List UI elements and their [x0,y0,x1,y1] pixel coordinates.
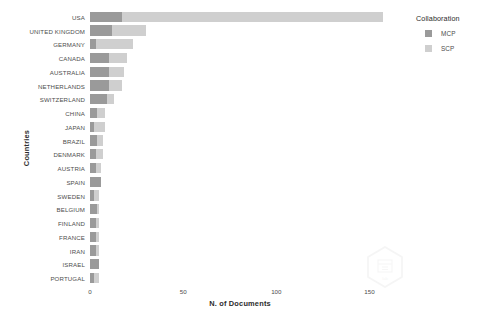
stacked-bar [90,25,146,35]
stacked-bar [90,190,99,200]
stacked-bar [90,53,127,63]
y-axis-category-label: UNITED KINGDOM [29,27,85,34]
legend-item-scp[interactable]: SCP [416,44,482,53]
x-axis-title: N. of Documents [90,299,390,308]
stacked-bar [90,218,99,228]
stacked-bar [90,122,105,132]
bar-row: AUSTRIA [90,161,390,175]
legend-item-mcp[interactable]: MCP [416,29,482,38]
stacked-bar [90,149,103,159]
bar-row: CANADA [90,51,390,65]
bar-row: BRAZIL [90,134,390,148]
bar-row: IRAN [90,244,390,258]
y-axis-category-label: AUSTRIA [58,165,85,172]
stacked-bar [90,232,99,242]
stacked-bar [90,163,101,173]
bar-row: UNITED KINGDOM [90,24,390,38]
plot-area: USAUNITED KINGDOMGERMANYCANADAAUSTRALIAN… [90,10,390,285]
bar-segment-mcp [90,25,112,35]
y-axis-category-label: DENMARK [53,151,85,158]
y-axis-category-label: SWEDEN [57,192,85,199]
y-axis-category-label: BELGIUM [57,206,85,213]
y-axis-category-label: GERMANY [53,41,85,48]
y-axis-category-label: CHINA [65,110,85,117]
bar-segment-mcp [90,53,109,63]
bar-segment-scp [107,94,114,104]
bar-segment-scp [97,135,103,145]
country-collaboration-bar-chart: Countries USAUNITED KINGDOMGERMANYCANADA… [0,0,486,321]
stacked-bar [90,67,124,77]
bar-segment-scp [96,232,100,242]
y-axis-category-label: BRAZIL [63,137,85,144]
bar-row: PORTUGAL [90,271,390,285]
stacked-bar [90,204,99,214]
y-axis-title: Countries [22,130,31,166]
bar-segment-mcp [90,177,101,187]
bar-segment-scp [97,108,104,118]
bar-row: ISRAEL [90,258,390,272]
y-axis-category-label: AUSTRALIA [50,68,85,75]
bar-segment-scp [122,12,383,22]
bar-segment-scp [96,245,100,255]
y-axis-category-label: FRANCE [59,233,85,240]
stacked-bar [90,108,105,118]
bar-segment-mcp [90,80,109,90]
bar-segment-scp [94,273,100,283]
bar-segment-scp [109,80,122,90]
bar-row: DENMARK [90,148,390,162]
y-axis-category-label: IRAN [70,247,85,254]
bar-row: SWITZERLAND [90,93,390,107]
bar-segment-mcp [90,204,97,214]
y-axis-category-label: JAPAN [65,123,85,130]
x-axis-tick-label: 100 [271,288,281,295]
x-axis-tick-label: 150 [364,288,374,295]
bar-segment-scp [96,163,102,173]
bar-segment-scp [96,149,103,159]
stacked-bar [90,39,133,49]
stacked-bar [90,135,103,145]
bar-segment-scp [94,190,100,200]
stacked-bar [90,12,383,22]
legend-item-label: SCP [441,45,454,52]
bar-row: AUSTRALIA [90,65,390,79]
bar-row: BELGIUM [90,203,390,217]
stacked-bar [90,245,99,255]
bar-segment-mcp [90,108,97,118]
bar-row: SPAIN [90,175,390,189]
stacked-bar [90,259,99,269]
bar-row: FRANCE [90,230,390,244]
stacked-bar [90,80,122,90]
y-axis-category-label: USA [72,13,85,20]
legend-swatch-icon [425,30,432,37]
stacked-bar [90,94,114,104]
y-axis-category-label: NETHERLANDS [38,82,85,89]
bar-segment-mcp [90,67,109,77]
bar-row: GERMANY [90,38,390,52]
y-axis-category-label: PORTUGAL [50,275,85,282]
bar-segment-mcp [90,94,107,104]
x-axis-tick-label: 0 [88,288,91,295]
stacked-bar [90,177,101,187]
y-axis-category-label: FINLAND [58,220,85,227]
bar-row: FINLAND [90,216,390,230]
y-axis-category-label: SPAIN [66,178,85,185]
bar-segment-scp [97,204,99,214]
bar-segment-scp [109,67,124,77]
y-axis-category-label: CANADA [59,55,85,62]
bar-row: SWEDEN [90,189,390,203]
bar-segment-scp [94,122,105,132]
bar-row: JAPAN [90,120,390,134]
bar-segment-scp [112,25,146,35]
bar-row: CHINA [90,106,390,120]
bar-row: NETHERLANDS [90,79,390,93]
legend-title: Collaboration [416,14,482,23]
bar-segment-mcp [90,12,122,22]
y-axis-category-label: ISRAEL [62,261,85,268]
legend-swatch-icon [425,45,432,52]
bar-row: USA [90,10,390,24]
legend-item-label: MCP [441,30,456,37]
bar-segment-scp [109,53,128,63]
bar-segment-mcp [90,135,97,145]
bar-segment-scp [96,218,100,228]
y-axis-category-label: SWITZERLAND [40,96,85,103]
